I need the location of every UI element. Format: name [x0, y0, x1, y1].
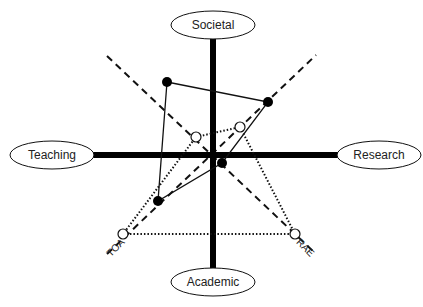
open-point-upper-left: [191, 132, 201, 142]
filled-point-top-left: [162, 77, 172, 87]
label-academic-text: Academic: [187, 275, 240, 289]
label-societal-text: Societal: [192, 18, 235, 32]
label-research: Research: [337, 141, 421, 169]
dotted-quadrilateral: [123, 127, 295, 234]
label-teaching-text: Teaching: [28, 148, 76, 162]
filled-point-top-right: [263, 97, 273, 107]
label-teaching: Teaching: [10, 141, 94, 169]
label-academic: Academic: [171, 268, 255, 296]
label-societal: Societal: [171, 11, 255, 39]
quadrant-diagram: Societal Teaching Research Academic TOA …: [0, 0, 423, 307]
open-point-rae: [290, 229, 300, 239]
open-point-upper-right: [235, 122, 245, 132]
filled-point-center: [217, 158, 227, 168]
label-rae: RAE: [294, 236, 317, 259]
label-research-text: Research: [353, 148, 404, 162]
filled-point-bottom-left: [153, 196, 163, 206]
